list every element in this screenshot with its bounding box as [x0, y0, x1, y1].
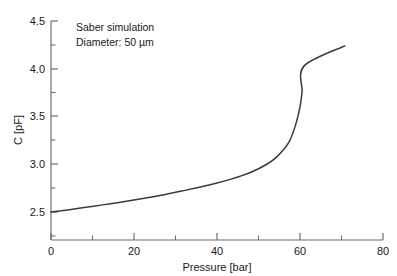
x-axis-major-ticks: [51, 233, 383, 240]
y-tick-label-3.5: 3.5: [30, 110, 45, 122]
capacitance-pressure-plot: 2.5 3.0 3.5 4.0 4.5 0 20 40 60 80 Pressu…: [0, 0, 397, 276]
y-axis-major-ticks: [51, 21, 58, 212]
y-tick-label-2.5: 2.5: [30, 206, 45, 218]
annotation-line-1: Saber simulation: [76, 21, 154, 33]
annotation-line-2: Diameter: 50 µm: [76, 36, 154, 48]
x-tick-label-60: 60: [294, 245, 306, 257]
x-tick-label-0: 0: [48, 245, 54, 257]
x-tick-label-80: 80: [377, 245, 389, 257]
y-tick-label-3.0: 3.0: [30, 158, 45, 170]
data-series-line: [51, 46, 345, 212]
x-axis-title: Pressure [bar]: [182, 261, 251, 273]
chart-figure: 2.5 3.0 3.5 4.0 4.5 0 20 40 60 80 Pressu…: [0, 0, 397, 276]
x-tick-label-20: 20: [128, 245, 140, 257]
y-axis-minor-ticks: [51, 45, 56, 236]
y-tick-label-4.5: 4.5: [30, 15, 45, 27]
y-tick-label-4.0: 4.0: [30, 63, 45, 75]
y-axis-title: C [pF]: [12, 115, 24, 145]
x-tick-label-40: 40: [211, 245, 223, 257]
